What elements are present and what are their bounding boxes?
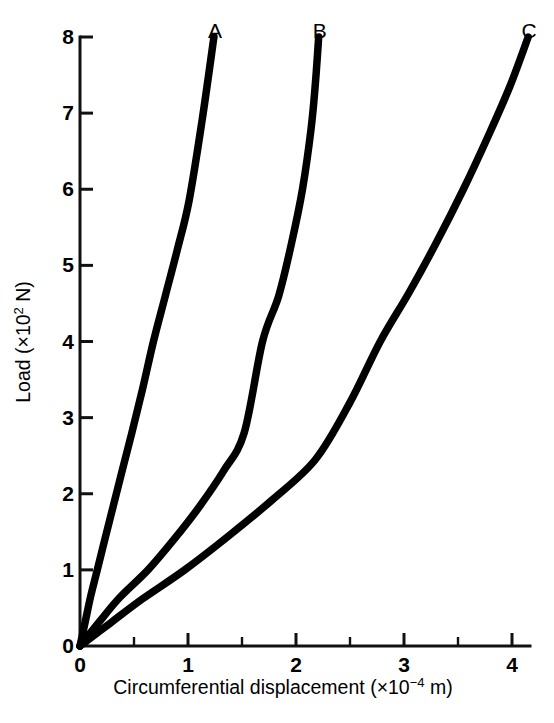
y-tick-label-8: 8 [55, 26, 74, 47]
x-tick-label-4: 4 [502, 654, 522, 675]
y-tick-label-7: 7 [55, 102, 74, 123]
axes-group [80, 37, 530, 646]
x-tick-marks [134, 633, 512, 646]
curve-label-b: B [310, 20, 330, 41]
curve-c [80, 37, 528, 646]
y-tick-label-5: 5 [55, 254, 74, 275]
x-axis-title: Circumferential displacement (×10−4 m) [113, 675, 452, 698]
y-tick-label-6: 6 [55, 178, 74, 199]
x-tick-label-3: 3 [394, 654, 414, 675]
curve-label-c: C [519, 20, 539, 41]
y-tick-label-0: 0 [55, 635, 74, 656]
data-curves [80, 37, 528, 646]
y-tick-marks [80, 37, 93, 570]
x-tick-label-1: 1 [178, 654, 198, 675]
y-axis-title: Load (×102 N) [11, 281, 34, 403]
x-tick-label-2: 2 [286, 654, 306, 675]
plot-canvas: Load (×102 N) Circumferential displaceme… [0, 0, 554, 723]
y-tick-label-3: 3 [55, 407, 74, 428]
y-tick-label-4: 4 [55, 331, 74, 352]
y-tick-label-1: 1 [55, 559, 74, 580]
curve-label-a: A [205, 20, 225, 41]
curve-a [80, 37, 214, 646]
chart-figure: Load (×102 N) Circumferential displaceme… [0, 0, 554, 723]
y-tick-label-2: 2 [55, 483, 74, 504]
x-tick-label-0: 0 [70, 654, 90, 675]
